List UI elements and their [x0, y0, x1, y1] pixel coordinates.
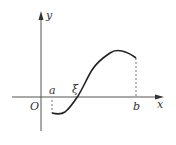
curve-f	[52, 50, 136, 113]
origin-label: O	[30, 100, 39, 113]
function-graph: y x O a ξ b	[0, 0, 176, 145]
x-axis-label: x	[157, 98, 164, 111]
y-axis-label: y	[45, 9, 53, 22]
point-b-label: b	[133, 100, 140, 113]
point-xi-label: ξ	[72, 83, 79, 96]
y-axis-arrow-icon	[39, 11, 44, 20]
point-a-label: a	[49, 84, 56, 97]
